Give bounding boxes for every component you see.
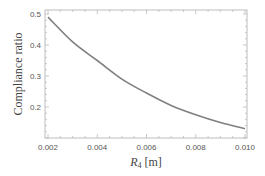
- y-axis-title: Compliance ratio: [11, 33, 25, 116]
- x-axis-title-unit: [m]: [142, 155, 162, 169]
- y-tick-label: 0.2: [30, 103, 42, 112]
- plot-frame: [45, 10, 247, 138]
- x-axis-title: R4 [m]: [129, 155, 162, 170]
- y-tick-labels: 0.20.30.40.5: [30, 10, 42, 112]
- x-tick-label: 0.004: [87, 143, 108, 152]
- data-line: [48, 17, 245, 129]
- chart: 0.20.30.40.5 0.0020.0040.0060.0080.010 C…: [0, 0, 265, 176]
- x-tick-label: 0.010: [235, 143, 256, 152]
- y-tick-label: 0.4: [30, 41, 42, 50]
- y-tick-label: 0.3: [30, 72, 42, 81]
- x-tick-labels: 0.0020.0040.0060.0080.010: [38, 143, 256, 152]
- x-tick-label: 0.008: [186, 143, 207, 152]
- axis-ticks: [45, 10, 247, 138]
- x-tick-label: 0.002: [38, 143, 59, 152]
- y-tick-label: 0.5: [30, 10, 42, 19]
- x-tick-label: 0.006: [136, 143, 157, 152]
